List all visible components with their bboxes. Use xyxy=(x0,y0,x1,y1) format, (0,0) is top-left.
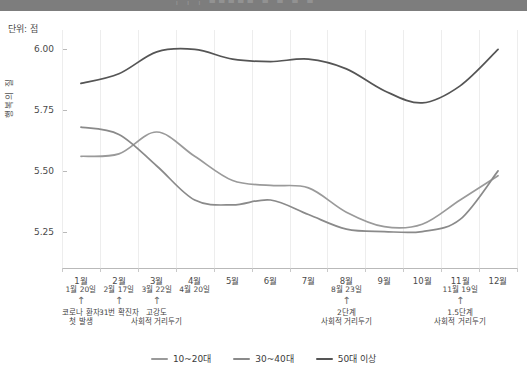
event-description: 1.5단계 사회적 거리두기 xyxy=(414,308,506,327)
up-arrow-icon: ↑ xyxy=(111,294,203,308)
legend-swatch xyxy=(233,358,250,360)
x-axis-tick xyxy=(441,268,442,272)
event-annotation: 4월 20일 xyxy=(149,286,241,294)
event-description: 고강도 사회적 거리두기 xyxy=(111,308,203,327)
x-axis-tick xyxy=(290,268,291,272)
event-annotation: 8월 23일↑2단계 사회적 거리두기 xyxy=(300,286,392,327)
event-description: 2단계 사회적 거리두기 xyxy=(300,308,392,327)
line-chart-plot xyxy=(62,30,517,268)
event-annotation: 11월 19일↑1.5단계 사회적 거리두기 xyxy=(414,286,506,327)
legend-item[interactable]: 10~20대 xyxy=(151,352,211,365)
event-date: 11월 19일 xyxy=(414,286,506,294)
x-axis-tick xyxy=(365,268,366,272)
legend-label: 50대 이상 xyxy=(338,352,376,365)
y-axis-tick-label: 5.25 xyxy=(14,227,54,237)
y-axis-tick-label: 6.00 xyxy=(14,44,54,54)
legend-label: 10~20대 xyxy=(173,352,211,365)
x-axis-tick xyxy=(138,268,139,272)
y-axis-tick-label: 5.50 xyxy=(14,166,54,176)
gridline-vertical xyxy=(517,30,518,268)
legend-item[interactable]: 30~40대 xyxy=(233,352,293,365)
legend-swatch xyxy=(316,358,333,360)
x-axis-tick-label: 12월 xyxy=(478,274,518,286)
legend-label: 30~40대 xyxy=(255,352,293,365)
series-line xyxy=(81,132,498,228)
up-arrow-icon: ↑ xyxy=(414,294,506,308)
event-date: 8월 23일 xyxy=(300,286,392,294)
x-axis-tick xyxy=(62,268,63,272)
x-axis-tick xyxy=(176,268,177,272)
chart-page: ¦ ¦ ¦ ▪▪▪▪▪ ▪ ▪ ▪ ▪ 단위: 점 행복의 질 6.005.75… xyxy=(0,0,527,375)
series-line xyxy=(81,49,498,103)
legend-item[interactable]: 50대 이상 xyxy=(316,352,376,365)
x-axis-tick-label: 5월 xyxy=(213,274,253,286)
up-arrow-icon: ↑ xyxy=(300,294,392,308)
x-axis-tick xyxy=(214,268,215,272)
chart-legend: 10~20대30~40대50대 이상 xyxy=(0,352,527,365)
header-band-ghost-text: ¦ ¦ ¦ ▪▪▪▪▪ ▪ ▪ ▪ ▪ xyxy=(175,0,316,6)
x-axis-tick-label: 9월 xyxy=(364,274,404,286)
x-axis-tick-label: 6월 xyxy=(251,274,291,286)
event-date: 4월 20일 xyxy=(149,286,241,294)
cutoff-header-band: ¦ ¦ ¦ ▪▪▪▪▪ ▪ ▪ ▪ ▪ xyxy=(0,0,527,11)
x-axis-tick xyxy=(252,268,253,272)
x-axis-tick xyxy=(327,268,328,272)
x-axis-tick xyxy=(403,268,404,272)
legend-swatch xyxy=(151,358,168,360)
x-axis-tick xyxy=(100,268,101,272)
x-axis-tick-label: 10월 xyxy=(402,274,442,286)
y-axis-tick-label: 5.75 xyxy=(14,105,54,115)
x-axis-tick xyxy=(517,268,518,272)
x-axis-tick xyxy=(479,268,480,272)
y-axis-title: 행복의 질 xyxy=(2,58,14,118)
x-axis-tick-label: 7월 xyxy=(288,274,328,286)
unit-caption: 단위: 점 xyxy=(8,22,38,35)
